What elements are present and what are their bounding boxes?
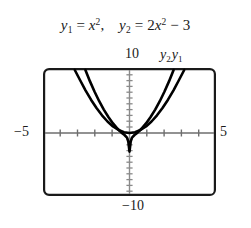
graph-svg: [43, 68, 216, 196]
y2-subscript: 2: [126, 25, 131, 35]
equation-y1: y1 = x2,: [61, 17, 105, 33]
y2-constant-term: − 3: [170, 17, 190, 33]
x-min-label: −5: [14, 124, 29, 140]
curve-label-y1: y1: [172, 47, 183, 62]
curve-label-y2-subscript: 2: [166, 54, 171, 64]
x-max-label: 5: [220, 124, 227, 140]
y-min-label: −10: [110, 198, 156, 214]
y2-variable: y: [119, 17, 126, 33]
curve-label-y1-subscript: 1: [178, 54, 183, 64]
y2-rhs-base: x: [155, 17, 162, 33]
title-comma: ,: [100, 17, 104, 33]
curve-label-y2: y2: [160, 47, 171, 62]
graphing-calculator-window: [43, 68, 216, 196]
page-title: y1 = x2, y2 = 2x2 − 3: [0, 17, 251, 35]
y1-rhs-base: x: [89, 17, 96, 33]
curve-legend: y2y1: [160, 47, 182, 64]
y1-subscript: 1: [68, 25, 73, 35]
y1-variable: y: [61, 17, 68, 33]
y-max-label: 10: [112, 46, 152, 62]
y2-rhs-exponent: 2: [162, 17, 167, 27]
y2-coefficient: 2: [147, 17, 155, 33]
equals-sign-2: =: [135, 17, 144, 33]
equation-y2: y2 = 2x2 − 3: [119, 17, 190, 33]
equals-sign-1: =: [76, 17, 85, 33]
